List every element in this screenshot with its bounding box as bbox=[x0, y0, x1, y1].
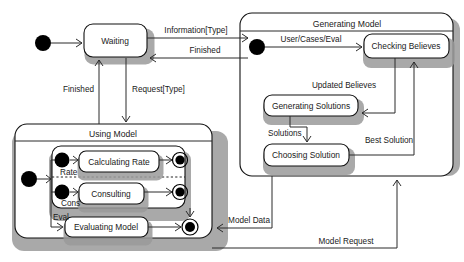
state-label-generating-model: Generating Model bbox=[313, 19, 381, 29]
initial-state-cons bbox=[55, 185, 70, 200]
transition-label-updated-believes: Updated Believes bbox=[312, 81, 376, 90]
state-label-waiting: Waiting bbox=[101, 36, 129, 46]
transition-information-type: Information[Type] bbox=[147, 26, 248, 42]
initial-state-using-model bbox=[21, 171, 37, 187]
transition-label-information-type: Information[Type] bbox=[164, 26, 227, 35]
transition-label-cons: Cons bbox=[61, 199, 80, 208]
transition-finished-from-generating-model: Finished bbox=[150, 46, 248, 62]
initial-state-top bbox=[35, 35, 51, 51]
state-generating-solutions: Generating Solutions bbox=[263, 95, 364, 125]
initial-state-generating-model bbox=[249, 39, 265, 55]
transition-label-eval: Eval bbox=[53, 213, 69, 222]
state-label-generating-solutions: Generating Solutions bbox=[272, 101, 350, 111]
transition-label-request-type: Request[Type] bbox=[132, 85, 185, 94]
state-label-checking-believes: Checking Believes bbox=[372, 41, 441, 51]
transition-label-user-cases-eval: User/Cases/Eval bbox=[281, 35, 342, 44]
transition-label-model-data: Model Data bbox=[228, 216, 270, 225]
state-label-evaluating-model: Evaluating Model bbox=[74, 222, 138, 232]
state-evaluating-model: Evaluating Model bbox=[64, 217, 153, 246]
state-checking-believes: Checking Believes bbox=[363, 34, 455, 68]
transition-label-model-request: Model Request bbox=[318, 237, 374, 246]
state-consulting: Consulting bbox=[78, 183, 149, 213]
transition-label-finished-left: Finished bbox=[63, 85, 94, 94]
state-label-choosing-solution: Choosing Solution bbox=[272, 150, 340, 160]
transition-model-request: Model Request bbox=[212, 180, 401, 248]
uml-state-diagram: Using Model Calculating Rate Consulting … bbox=[0, 0, 464, 262]
initial-state-rate bbox=[55, 153, 70, 168]
transition-label-finished-right: Finished bbox=[190, 46, 221, 55]
state-label-calculating-rate: Calculating Rate bbox=[88, 157, 150, 167]
state-label-consulting: Consulting bbox=[91, 189, 131, 199]
transition-request-type: Request[Type] bbox=[122, 58, 185, 122]
transition-label-rate: Rate bbox=[60, 168, 78, 177]
state-choosing-solution: Choosing Solution bbox=[263, 144, 355, 175]
transition-label-best-solution: Best Solution bbox=[365, 136, 414, 145]
state-waiting: Waiting bbox=[84, 24, 155, 65]
state-label-using-model: Using Model bbox=[89, 129, 137, 139]
transition-finished-from-using-model: Finished bbox=[63, 60, 103, 124]
transition-initial-to-waiting bbox=[51, 39, 82, 47]
state-calculating-rate: Calculating Rate bbox=[78, 151, 164, 181]
transition-label-solutions: Solutions bbox=[268, 129, 302, 138]
